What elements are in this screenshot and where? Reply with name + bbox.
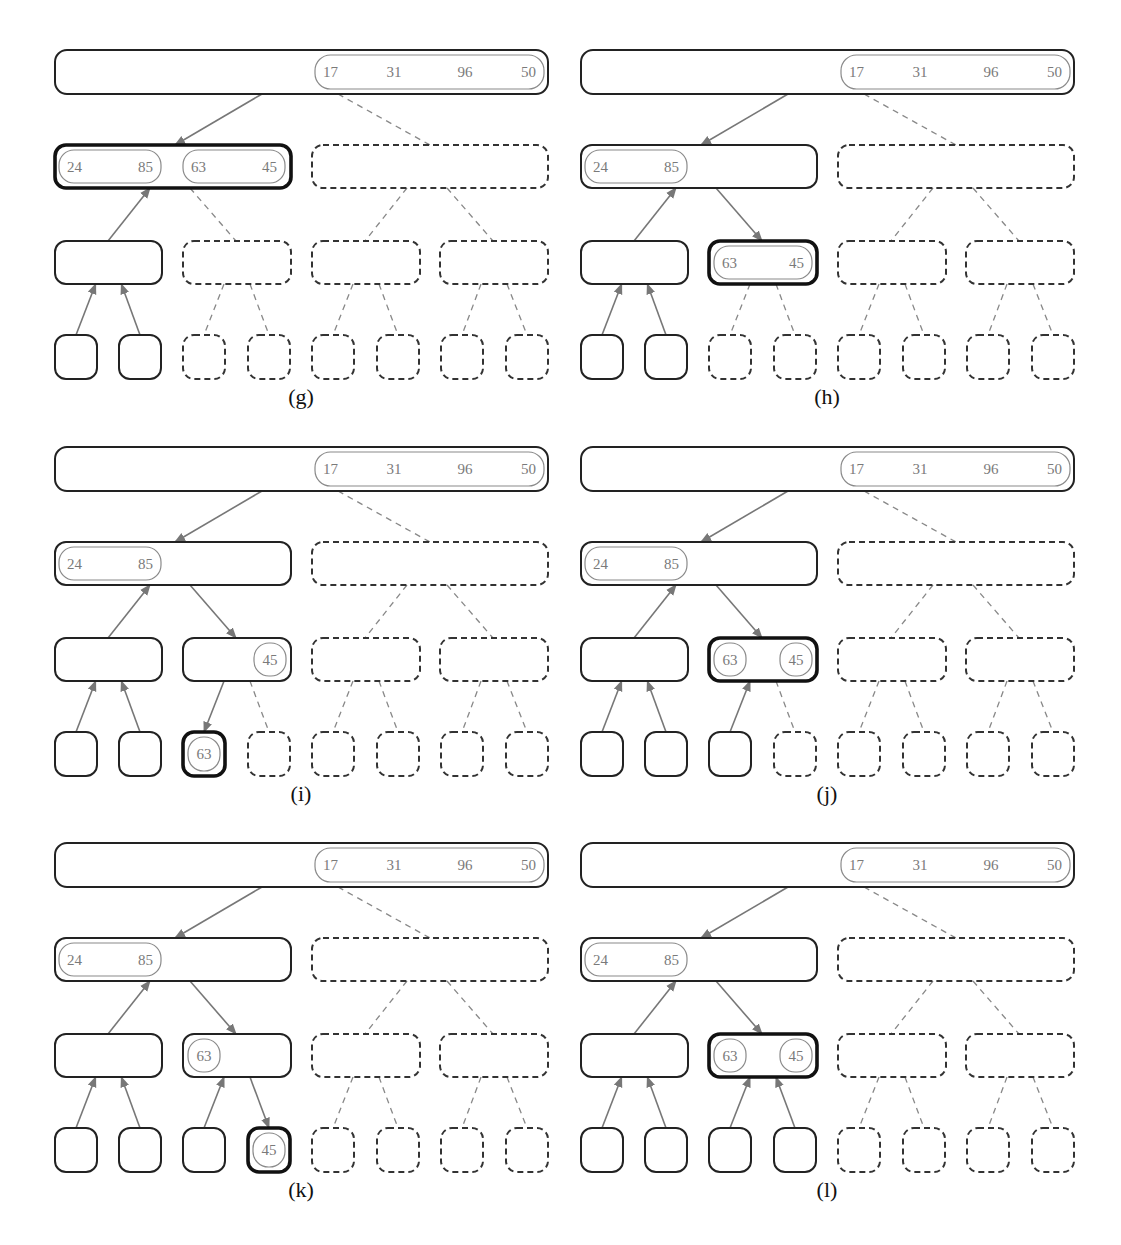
leaf-node-2 [709,1128,751,1172]
edge-root-to-l1-left [701,491,788,542]
level2-node-3 [966,1034,1074,1077]
level2-run-1: 45 [780,1039,812,1072]
leaf-node-0 [55,335,97,379]
leaf-box [709,732,751,776]
edge-l2-to-leaf-6 [988,681,1007,732]
run-capsule [315,452,544,486]
level2-run-0: 63 [714,1039,746,1072]
level1-node-0: 2485 [55,542,291,585]
edge-l1-to-l2-0 [634,981,676,1034]
level1-box [312,938,548,981]
leaf-box [645,732,687,776]
level2-run-1: 45 [780,643,812,676]
run-value: 31 [387,64,402,80]
level1-box [838,938,1074,981]
edge-l2-to-leaf-0 [602,1077,622,1128]
run-value: 45 [263,652,278,668]
leaf-box [838,732,880,776]
level2-box [55,1034,162,1077]
level1-run-0: 2485 [59,943,161,976]
level2-node-3 [440,1034,548,1077]
leaf-box [55,335,97,379]
edge-l2-to-leaf-7 [1033,1077,1053,1128]
panel-caption: (j) [817,781,838,806]
run-value: 96 [984,461,1000,477]
leaf-node-0 [55,1128,97,1172]
level1-node-0: 24856345 [55,145,291,188]
leaf-node-5 [377,335,419,379]
level2-node-3 [966,638,1074,681]
level1-node-1 [312,145,548,188]
leaf-box [248,732,290,776]
leaf-node-5 [377,732,419,776]
level1-run-0: 2485 [59,547,161,580]
level1-node-1 [312,938,548,981]
edge-l2-to-leaf-6 [462,284,481,335]
edges [76,94,527,335]
panel-caption: (l) [817,1177,838,1202]
level1-run-1: 6345 [183,150,285,183]
edge-root-to-l1-left [175,491,262,542]
level1-node-0: 2485 [55,938,291,981]
edge-l1-to-l2-1 [190,981,236,1034]
edge-l2-to-leaf-1 [647,681,666,732]
merge-tree-figure: 1731965024856345(g)1731965024856345(h)17… [0,0,1121,1245]
level2-box [312,241,420,284]
edge-l1-to-l2-2 [365,188,407,241]
run-value: 96 [458,64,474,80]
leaf-box [377,732,419,776]
leaf-box [183,1128,225,1172]
edge-root-to-l1-right [864,94,956,145]
edge-l1-to-l2-0 [108,981,150,1034]
edge-l2-to-leaf-2 [730,284,750,335]
edge-l2-to-leaf-2 [204,1077,224,1128]
edge-l1-to-l2-0 [108,585,150,638]
leaf-node-4 [838,335,880,379]
edge-l2-to-leaf-3 [776,681,795,732]
edge-l2-to-leaf-4 [333,284,353,335]
level2-node-0 [55,241,162,284]
leaf-node-2 [709,732,751,776]
run-value: 31 [913,461,928,477]
leaf-box [709,1128,751,1172]
level2-box [966,1034,1074,1077]
panels-container: 1731965024856345(g)1731965024856345(h)17… [55,50,1074,1202]
edge-l2-to-leaf-3 [250,681,269,732]
leaf-node-0 [581,732,623,776]
edge-l2-to-leaf-7 [507,681,527,732]
run-value: 45 [789,652,804,668]
edge-l1-to-l2-0 [634,188,676,241]
edge-root-to-l1-right [864,887,956,938]
edge-l2-to-leaf-1 [121,1077,140,1128]
level2-box [581,638,688,681]
edge-l2-to-leaf-2 [204,284,224,335]
run-value: 63 [191,159,206,175]
leaf-node-6 [441,1128,483,1172]
leaf-box [903,732,945,776]
panel-l: 1731965024856345(l) [581,843,1074,1202]
leaf-box [119,335,161,379]
run-value: 50 [521,857,536,873]
edge-l1-to-l2-1 [716,585,762,638]
edge-l1-to-l2-3 [973,585,1019,638]
leaf-box [774,732,816,776]
run-value: 85 [664,159,679,175]
run-value: 24 [593,159,609,175]
edge-l2-to-leaf-4 [859,1077,879,1128]
leaf-box [119,1128,161,1172]
run-value: 24 [593,952,609,968]
edge-l1-to-l2-0 [108,188,150,241]
leaf-box [441,1128,483,1172]
leaf-box [967,732,1009,776]
edge-l2-to-leaf-7 [507,284,527,335]
root-node: 17319650 [581,843,1074,887]
run-value: 50 [1047,64,1062,80]
run-value: 96 [458,461,474,477]
level2-node-0 [581,1034,688,1077]
edge-l1-to-l2-3 [447,188,493,241]
leaf-box [838,1128,880,1172]
level1-node-1 [312,542,548,585]
leaf-run: 63 [188,737,220,771]
run-capsule [841,452,1070,486]
edge-l2-to-leaf-6 [462,681,481,732]
